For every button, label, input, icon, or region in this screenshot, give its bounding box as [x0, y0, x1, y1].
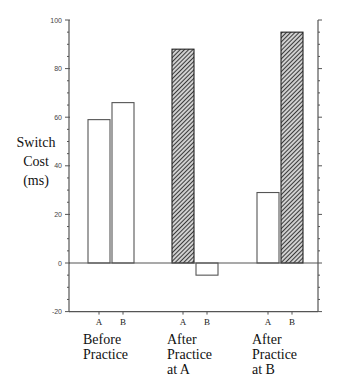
group-label-line: at A — [167, 362, 191, 377]
group-label-line: Practice — [167, 347, 212, 362]
y-tick-label: 60 — [54, 114, 62, 121]
bar — [88, 120, 110, 263]
bar-group — [257, 32, 303, 263]
bar-group — [172, 49, 218, 275]
bar-chart: SwitchCost(ms) -20020406080100 ABBeforeP… — [0, 0, 337, 391]
right-y-axis — [318, 20, 322, 312]
y-axis-title-line: Cost — [23, 154, 49, 169]
bar-label: B — [120, 317, 126, 327]
y-axis-title-line: Switch — [17, 135, 56, 150]
y-tick-label: 80 — [54, 65, 62, 72]
bar-label: A — [265, 317, 272, 327]
y-tick-label: 20 — [54, 211, 62, 218]
group-label-line: Before — [83, 332, 121, 347]
bar — [257, 193, 279, 263]
bars — [88, 32, 303, 275]
group-label-line: After — [252, 332, 282, 347]
bar — [112, 103, 134, 263]
y-tick-label: -20 — [52, 308, 62, 315]
y-tick-label: 0 — [58, 260, 62, 267]
bar-label: B — [289, 317, 295, 327]
y-axis-title-line: (ms) — [23, 173, 49, 189]
group-label-line: Practice — [83, 347, 128, 362]
bar — [281, 32, 303, 263]
y-tick-label: 100 — [50, 17, 62, 24]
bar-label: A — [96, 317, 103, 327]
y-axis-title: SwitchCost(ms) — [17, 135, 56, 189]
bar — [196, 263, 218, 275]
group-label-line: After — [167, 332, 197, 347]
bar-label: A — [180, 317, 187, 327]
bar — [172, 49, 194, 263]
group-label-line: Practice — [252, 347, 297, 362]
x-axis-labels: ABBeforePracticeABAfterPracticeat AABAft… — [83, 312, 297, 377]
group-label-line: at B — [252, 362, 275, 377]
chart-canvas: SwitchCost(ms) -20020406080100 ABBeforeP… — [0, 0, 337, 391]
bar-label: B — [204, 317, 210, 327]
bar-group — [88, 103, 134, 263]
y-tick-label: 40 — [54, 162, 62, 169]
